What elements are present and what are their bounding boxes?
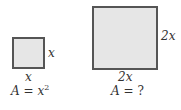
area-symbol: A — [111, 84, 120, 98]
large-square-side-bottom-label: 2x — [118, 71, 132, 83]
area-symbol: A — [11, 84, 20, 98]
equals-sign: = — [24, 84, 34, 98]
small-square-side-right-label: x — [48, 47, 55, 59]
large-square-area-formula: A = ? — [111, 85, 144, 97]
small-square-area-formula: A = x2 — [11, 85, 49, 97]
equals-sign: = — [124, 84, 134, 98]
small-square-side-bottom-label: x — [25, 71, 32, 83]
large-square — [92, 6, 158, 70]
small-square — [12, 37, 45, 69]
area-exponent: 2 — [44, 83, 49, 92]
large-square-side-right-label: 2x — [161, 30, 175, 42]
area-unknown: ? — [137, 84, 143, 98]
